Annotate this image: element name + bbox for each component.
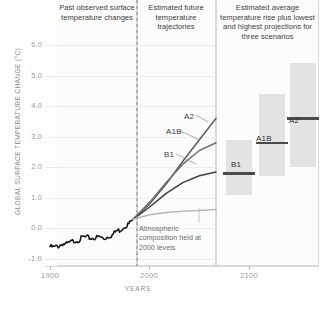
line-label-a1b: A1B — [166, 127, 182, 136]
climate-projection-chart: Past observed surface temperature change… — [0, 0, 322, 311]
line-label-b1: B1 — [164, 150, 174, 159]
leader-a1b — [180, 131, 200, 140]
mean-line-b1 — [223, 172, 255, 174]
bar-label-a2: A2 — [289, 116, 299, 125]
series-line-observed-surface-temperature-change — [50, 219, 133, 248]
annotation-text: Atmospheric composition held at 2000 lev… — [139, 224, 217, 252]
line-label-a2: A2 — [184, 112, 194, 121]
bar-label-a1b: A1B — [256, 134, 272, 143]
leader-a2 — [196, 115, 208, 122]
bar-label-b1: B1 — [231, 160, 241, 169]
